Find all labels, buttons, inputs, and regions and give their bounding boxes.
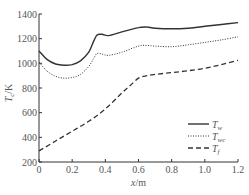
series-line-t-f (39, 60, 238, 151)
axes: 20040060080010001200140000.20.40.60.81.0… (3, 9, 244, 189)
legend: TwTwcTf (188, 119, 226, 156)
plot-area (39, 23, 238, 151)
legend-label: Tf (212, 143, 221, 156)
x-tick-label: 0.2 (66, 164, 79, 175)
x-tick-label: 1.2 (232, 164, 245, 175)
x-tick-label: 0 (37, 164, 42, 175)
series-line-t-w (39, 23, 238, 66)
y-tick-label: 400 (22, 132, 37, 143)
y-axis-label: Tc/K (3, 83, 16, 102)
y-tick-label: 1200 (17, 33, 37, 44)
y-tick-label: 600 (22, 107, 37, 118)
x-axis-label: x/m (130, 177, 146, 188)
x-tick-label: 1.0 (199, 164, 212, 175)
y-tick-label: 200 (22, 157, 37, 168)
line-chart: 20040060080010001200140000.20.40.60.81.0… (0, 0, 249, 195)
x-tick-label: 0.6 (132, 164, 145, 175)
x-tick-label: 0.4 (99, 164, 112, 175)
series-line-t-wc (39, 37, 238, 78)
x-tick-label: 0.8 (165, 164, 178, 175)
y-tick-label: 1400 (17, 9, 37, 20)
y-tick-label: 800 (22, 83, 37, 94)
y-tick-label: 1000 (17, 58, 37, 69)
